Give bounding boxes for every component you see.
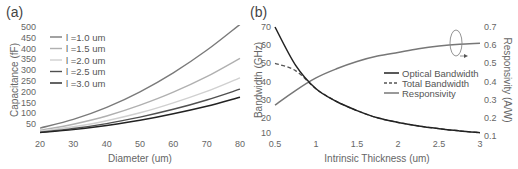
chart-a-y-ticks: 50100150200250300350400450500 bbox=[21, 22, 36, 129]
y-tick-label: 70 bbox=[261, 22, 271, 32]
y-tick-label: 400 bbox=[21, 44, 36, 54]
panel-a-label: (a) bbox=[6, 4, 23, 20]
chart-a-x-ticks: 20304050607080 bbox=[35, 139, 245, 149]
legend-label: l =2.0 um bbox=[66, 55, 105, 66]
x-tick-label: 60 bbox=[168, 139, 178, 149]
y-right-tick-label: 0.6 bbox=[484, 40, 497, 50]
x-tick-label: 80 bbox=[235, 139, 245, 149]
chart-b-legend: Optical BandwidthTotal BandwidthResponsi… bbox=[384, 68, 479, 99]
figure: (a) 50100150200250300350400450500 203040… bbox=[0, 0, 518, 169]
chart-a: (a) 50100150200250300350400450500 203040… bbox=[6, 4, 245, 164]
x-tick-label: 1 bbox=[313, 139, 318, 149]
x-tick-label: 50 bbox=[135, 139, 145, 149]
y-tick-label: 500 bbox=[21, 22, 36, 32]
x-tick-label: 2.5 bbox=[433, 139, 446, 149]
y-right-tick-label: 0.7 bbox=[484, 22, 497, 32]
y-tick-label: 450 bbox=[21, 33, 36, 43]
x-tick-label: 30 bbox=[68, 139, 78, 149]
y-right-tick-label: 0.3 bbox=[484, 95, 497, 105]
y-right-tick-label: 0.5 bbox=[484, 58, 497, 68]
chart-b-y-right-label: Responsivity (A/W) bbox=[502, 37, 513, 122]
ellipse-marker bbox=[450, 30, 462, 56]
y-tick-label: 200 bbox=[21, 87, 36, 97]
x-tick-label: 0.5 bbox=[269, 139, 282, 149]
y-tick-label: 250 bbox=[21, 76, 36, 86]
y-right-tick-label: 0.1 bbox=[484, 131, 497, 141]
x-tick-label: 2 bbox=[395, 139, 400, 149]
x-tick-label: 70 bbox=[202, 139, 212, 149]
legend-label: l =1.5 um bbox=[66, 43, 105, 54]
chart-b-x-label: Intrinsic Thickness (um) bbox=[324, 153, 429, 164]
chart-b-right-y-ticks: 0.10.20.30.40.50.60.7 bbox=[484, 22, 497, 141]
chart-b-x-ticks: 0.511.522.53 bbox=[269, 139, 483, 149]
y-tick-label: 100 bbox=[21, 108, 36, 118]
chart-b: (b) 10203040506070 0.10.20.30.40.50.60.7… bbox=[250, 4, 513, 164]
chart-a-x-label: Diameter (um) bbox=[108, 153, 172, 164]
chart-a-y-label: Capacitance (fF) bbox=[9, 43, 20, 117]
arrow-head-icon bbox=[464, 54, 468, 58]
legend-label: l =2.5 um bbox=[66, 66, 105, 77]
chart-a-legend: l =1.0 uml =1.5 uml =2.0 uml =2.5 uml =3… bbox=[50, 32, 105, 89]
y-tick-label: 50 bbox=[26, 119, 36, 129]
y-tick-label: 150 bbox=[21, 98, 36, 108]
x-tick-label: 20 bbox=[35, 139, 45, 149]
panel-b-label: (b) bbox=[250, 4, 267, 20]
x-tick-label: 1.5 bbox=[351, 139, 364, 149]
y-tick-label: 300 bbox=[21, 65, 36, 75]
x-tick-label: 3 bbox=[477, 139, 482, 149]
series-line bbox=[40, 89, 240, 132]
chart-b-y-label: Bandwidth (GHz) bbox=[253, 42, 264, 118]
y-right-tick-label: 0.2 bbox=[484, 113, 497, 123]
legend-label: Responsivity bbox=[402, 88, 456, 99]
y-tick-label: 10 bbox=[261, 128, 271, 138]
x-tick-label: 40 bbox=[102, 139, 112, 149]
y-right-tick-label: 0.4 bbox=[484, 77, 497, 87]
legend-label: l =3.0 um bbox=[66, 78, 105, 89]
y-tick-label: 350 bbox=[21, 54, 36, 64]
legend-label: l =1.0 um bbox=[66, 32, 105, 43]
